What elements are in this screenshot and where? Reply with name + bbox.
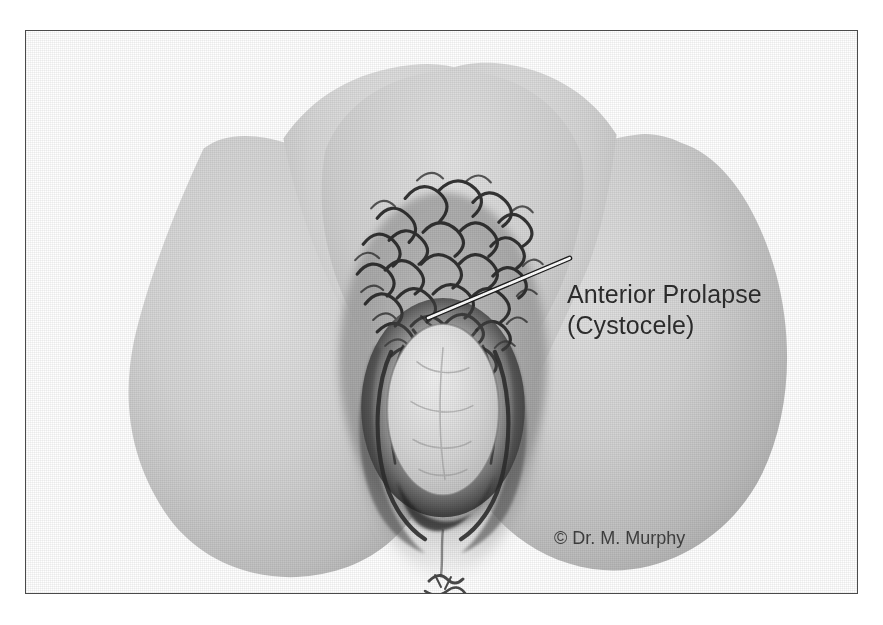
- perineal-raphe: [441, 529, 443, 575]
- annotation-line-2: (Cystocele): [567, 310, 762, 341]
- illustration-frame: Anterior Prolapse (Cystocele) © Dr. M. M…: [25, 30, 858, 594]
- annotation-line-1: Anterior Prolapse: [567, 280, 762, 308]
- anus: [425, 575, 465, 593]
- copyright-notice: © Dr. M. Murphy: [554, 528, 685, 549]
- figure-root: Anterior Prolapse (Cystocele) © Dr. M. M…: [0, 0, 883, 625]
- annotation-anterior-prolapse: Anterior Prolapse (Cystocele): [567, 279, 762, 341]
- labia-and-introitus: [359, 298, 527, 593]
